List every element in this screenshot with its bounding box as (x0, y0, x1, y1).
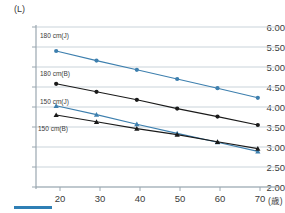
x-tick-label: 30 (95, 193, 106, 204)
series-label-180b: 180 cm(B) (40, 70, 70, 77)
series-150-cm-j- (54, 103, 261, 153)
data-point (215, 86, 219, 90)
data-point (215, 115, 219, 119)
series-line (56, 51, 258, 98)
series-layer (54, 49, 261, 154)
data-point (175, 77, 179, 81)
data-point (175, 107, 179, 111)
data-point (54, 112, 59, 117)
x-tick-marks (60, 187, 260, 191)
gridlines (36, 27, 278, 187)
data-point (135, 98, 139, 102)
series-line (56, 115, 258, 149)
series-label-150j: 150 cm(J) (40, 98, 69, 105)
data-point (256, 96, 260, 100)
chart-container: (L) 6.00 5.50 5.00 4.50 4.00 3.50 3.00 2… (0, 0, 285, 213)
accent-bar (14, 206, 52, 209)
x-tick-label: 40 (135, 193, 146, 204)
series-line (56, 84, 258, 125)
x-tick-label: 50 (175, 193, 186, 204)
series-label-150b: 150 cm(B) (38, 125, 68, 132)
series-180-cm-j- (54, 49, 260, 100)
x-tick-label: 60 (215, 193, 226, 204)
data-point (54, 82, 58, 86)
series-line (56, 106, 258, 152)
data-point (135, 68, 139, 72)
data-point (94, 90, 98, 94)
x-tick-label: 70 (255, 193, 266, 204)
series-label-180j: 180 cm(J) (40, 32, 69, 39)
data-point (94, 59, 98, 63)
data-point (54, 49, 58, 53)
x-axis-unit-label: (歳) (268, 194, 283, 206)
x-tick-label: 20 (55, 193, 66, 204)
data-point (256, 123, 260, 127)
